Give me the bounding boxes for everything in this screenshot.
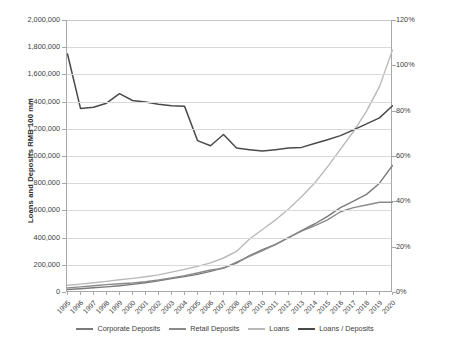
y-axis-left-tick-label: 1,800,000 (4, 43, 60, 50)
x-axis-tick (132, 292, 133, 295)
x-axis-tick (145, 292, 146, 295)
legend-item[interactable]: Loans (248, 325, 289, 333)
y-axis-right-tick (392, 111, 396, 112)
gridline (67, 102, 391, 103)
y-axis-right-tick-label: 100% (396, 61, 436, 68)
x-axis-tick (314, 292, 315, 295)
legend-swatch (298, 328, 315, 330)
legend-label: Loans / Deposits (319, 325, 373, 333)
y-axis-left-tick (62, 156, 66, 157)
legend-label: Loans (269, 325, 289, 333)
gridline (67, 156, 391, 157)
legend-label: Corporate Deposits (97, 325, 160, 333)
x-axis-tick (379, 292, 380, 295)
x-axis-tick (171, 292, 172, 295)
y-axis-right-tick (392, 201, 396, 202)
x-axis-tick (93, 292, 94, 295)
legend-item[interactable]: Corporate Deposits (76, 325, 160, 333)
y-axis-left-tick-label: 1,000,000 (4, 152, 60, 159)
y-axis-left-tick (62, 74, 66, 75)
y-axis-right-tick (392, 65, 396, 66)
gridline (67, 183, 391, 184)
y-axis-left-tick-label: 400,000 (4, 234, 60, 241)
y-axis-left-tick-label: 0 (4, 288, 60, 295)
x-axis-tick (119, 292, 120, 295)
x-axis-tick (249, 292, 250, 295)
y-axis-left-tick-label: 1,400,000 (4, 98, 60, 105)
legend-item[interactable]: Retail Deposits (169, 325, 239, 333)
y-axis-left-tick-label: 1,600,000 (4, 70, 60, 77)
y-axis-right-tick (392, 247, 396, 248)
y-axis-left-tick (62, 238, 66, 239)
legend-label: Retail Deposits (190, 325, 239, 333)
x-axis-tick (236, 292, 237, 295)
x-axis-tick (262, 292, 263, 295)
y-axis-left-tick (62, 47, 66, 48)
y-axis-right-tick-label: 0% (396, 288, 436, 295)
legend-swatch (169, 328, 186, 330)
y-axis-left-tick-label: 800,000 (4, 179, 60, 186)
x-axis-tick (366, 292, 367, 295)
x-axis-labels: 1995199619971998199920002001200220032004… (66, 294, 392, 324)
legend-swatch (248, 328, 265, 330)
x-axis-tick (340, 292, 341, 295)
y-axis-left-tick-label: 1,200,000 (4, 125, 60, 132)
y-axis-right-tick-label: 80% (396, 107, 436, 114)
y-axis-left-tick (62, 210, 66, 211)
gridline (67, 265, 391, 266)
gridlines (67, 20, 391, 291)
x-axis-tick (301, 292, 302, 295)
x-axis-tick (288, 292, 289, 295)
x-axis-tick (80, 292, 81, 295)
y-axis-left-tick (62, 183, 66, 184)
y-axis-right-tick (392, 20, 396, 21)
y-axis-left-tick (62, 129, 66, 130)
y-axis-right-tick-label: 20% (396, 243, 436, 250)
x-axis-tick (106, 292, 107, 295)
y-axis-left-tick-label: 200,000 (4, 261, 60, 268)
legend-item[interactable]: Loans / Deposits (298, 325, 373, 333)
legend-swatch (76, 328, 93, 330)
gridline (67, 20, 391, 21)
gridline (67, 129, 391, 130)
y-axis-right-tick-label: 40% (396, 197, 436, 204)
x-axis-tick (327, 292, 328, 295)
y-axis-left-tick-label: 2,000,000 (4, 16, 60, 23)
chart-container: Loans and Deposits RMB 100 mm Loans to D… (0, 0, 450, 352)
x-axis-tick (353, 292, 354, 295)
x-axis-tick (223, 292, 224, 295)
y-axis-left-tick (62, 102, 66, 103)
gridline (67, 238, 391, 239)
x-axis-tick (67, 292, 68, 295)
x-axis-tick (392, 292, 393, 295)
y-axis-left-tick (62, 292, 66, 293)
x-axis-tick (184, 292, 185, 295)
gridline (67, 47, 391, 48)
plot-area (66, 20, 392, 292)
chart-legend: Corporate DepositsRetail DepositsLoansLo… (0, 325, 450, 333)
y-axis-right-tick-label: 60% (396, 152, 436, 159)
gridline (67, 210, 391, 211)
y-axis-right-tick (392, 156, 396, 157)
x-axis-tick (210, 292, 211, 295)
y-axis-left-tick-label: 600,000 (4, 206, 60, 213)
y-axis-left-tick (62, 265, 66, 266)
y-axis-right-tick-label: 120% (396, 16, 436, 23)
gridline (67, 74, 391, 75)
x-axis-tick (158, 292, 159, 295)
x-axis-tick (197, 292, 198, 295)
y-axis-left-tick (62, 20, 66, 21)
x-axis-tick (275, 292, 276, 295)
